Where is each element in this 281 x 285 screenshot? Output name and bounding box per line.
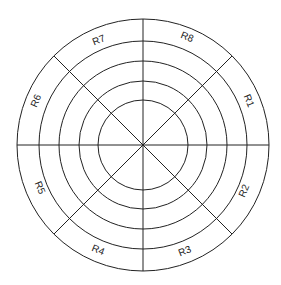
label-r1: R1	[242, 93, 257, 109]
label-r3: R3	[177, 243, 193, 258]
label-r4: R4	[90, 242, 106, 257]
target-diagram: R8 R1 R2 R3 R4 R5 R6 R7	[0, 0, 281, 285]
label-r7: R7	[91, 32, 107, 47]
label-r2: R2	[236, 182, 251, 198]
spokes	[17, 19, 269, 271]
label-r8: R8	[179, 29, 195, 44]
label-r6: R6	[28, 92, 43, 108]
